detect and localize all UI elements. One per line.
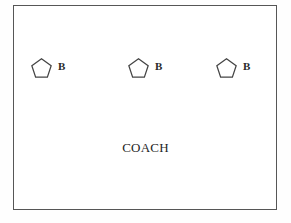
player-label: B	[243, 61, 250, 72]
coach-label: COACH	[0, 140, 291, 156]
player-label: B	[58, 61, 65, 72]
player-label: B	[155, 61, 162, 72]
player-marker-3[interactable]: B	[216, 58, 250, 78]
player-marker-1[interactable]: B	[31, 58, 65, 78]
court-boundary	[13, 5, 277, 210]
player-marker-2[interactable]: B	[128, 58, 162, 78]
pentagon-icon	[128, 58, 149, 78]
pentagon-icon	[216, 58, 237, 78]
pentagon-icon	[31, 58, 52, 78]
drill-diagram: B B B COACH	[0, 0, 291, 223]
